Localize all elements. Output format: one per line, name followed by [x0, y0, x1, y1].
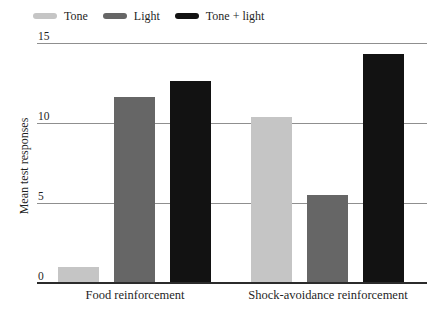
plot-area: 051015 [37, 43, 427, 283]
category-label-shock-avoidance-reinforcement: Shock-avoidance reinforcement [248, 288, 407, 303]
x-axis-line [37, 282, 427, 284]
legend-item-tone-plus-light: Tone + light [175, 9, 265, 23]
legend-swatch-tone-plus-light [175, 13, 199, 19]
chart-legend: Tone Light Tone + light [33, 9, 264, 23]
legend-item-light: Light [103, 9, 160, 23]
legend-swatch-tone [33, 13, 57, 19]
y-tick-label-0: 0 [38, 271, 44, 282]
bar-light-food-reinforcement [114, 97, 155, 283]
legend-item-tone: Tone [33, 9, 88, 23]
bar-tone-light-food-reinforcement [170, 81, 211, 283]
bar-light-shock-avoidance-reinforcement [307, 195, 348, 283]
legend-label-tone-plus-light: Tone + light [206, 9, 265, 23]
legend-swatch-light [103, 13, 127, 19]
y-tick-label-10: 10 [38, 111, 50, 122]
gridline-y15 [37, 43, 427, 44]
bar-tone-light-shock-avoidance-reinforcement [363, 54, 404, 283]
y-tick-label-15: 15 [38, 31, 50, 42]
legend-label-tone: Tone [64, 9, 88, 23]
bar-tone-food-reinforcement [58, 267, 99, 283]
grouped-bar-chart: Tone Light Tone + light Mean test respon… [0, 0, 444, 314]
category-label-food-reinforcement: Food reinforcement [86, 288, 185, 303]
bar-tone-shock-avoidance-reinforcement [251, 117, 292, 283]
y-axis-label: Mean test responses [17, 118, 32, 215]
legend-label-light: Light [134, 9, 160, 23]
y-tick-label-5: 5 [38, 191, 44, 202]
